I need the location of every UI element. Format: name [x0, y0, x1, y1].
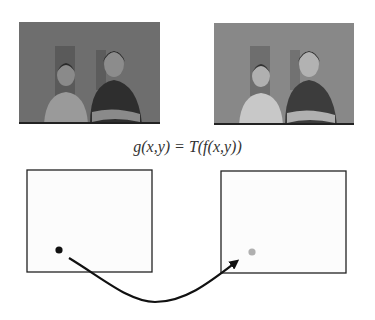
output-pixel-dot: [248, 248, 255, 255]
diagram-canvas: [0, 0, 375, 320]
input-photo: [19, 22, 160, 124]
input-plane-box: [27, 170, 152, 272]
output-photo: [214, 23, 354, 125]
transform-equation: g(x,y) = T(f(x,y)): [0, 138, 375, 156]
input-pixel-dot: [55, 246, 62, 253]
output-plane-box: [221, 171, 346, 273]
